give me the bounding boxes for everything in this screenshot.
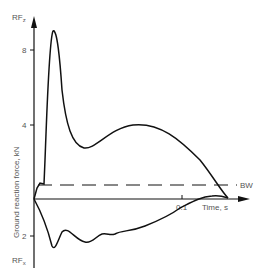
y-axis-top-label: RFz xyxy=(12,13,26,23)
y-axis-label: Ground reaction force, kN xyxy=(12,146,21,238)
y-tick-label-8: 8 xyxy=(22,46,27,55)
y-axis-arrow-icon xyxy=(31,16,37,28)
y-tick-label-4: 4 xyxy=(22,121,27,130)
bw-label: BW xyxy=(240,181,253,190)
rfz-curve xyxy=(34,31,228,199)
x-axis-label: Time, s xyxy=(202,203,228,212)
rfx-curve xyxy=(34,196,228,248)
x-axis-arrow-icon xyxy=(238,196,250,202)
chart: 8 4 2 0.1 Time, s RFz RFx Ground reactio… xyxy=(0,0,263,275)
y-axis-bottom-label: RFx xyxy=(12,256,26,266)
y-tick-label-2: 2 xyxy=(22,232,27,241)
